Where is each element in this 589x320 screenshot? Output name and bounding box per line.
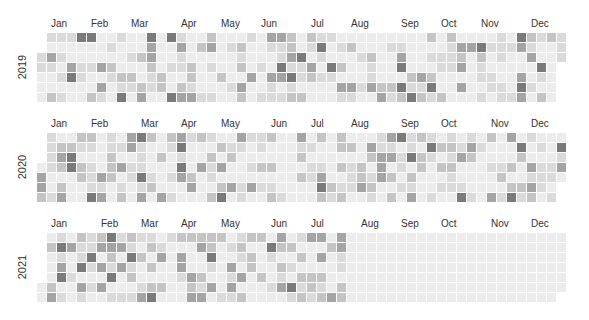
day-cell (277, 183, 286, 192)
day-cell (447, 143, 456, 152)
month-label-aug: Aug (361, 218, 379, 229)
day-cell (367, 293, 376, 302)
day-cell (397, 183, 406, 192)
day-cell (307, 183, 316, 192)
day-cell (407, 163, 416, 172)
day-cell (67, 163, 76, 172)
day-cell (107, 133, 116, 142)
day-cell (217, 183, 226, 192)
day-cell (467, 283, 476, 292)
day-cell (347, 173, 356, 182)
day-cell (477, 193, 486, 202)
day-cell (507, 243, 516, 252)
day-cell (257, 273, 266, 282)
day-cell (267, 233, 276, 242)
day-cell (377, 153, 386, 162)
day-cell (117, 143, 126, 152)
day-cell (117, 253, 126, 262)
day-cell (517, 193, 526, 202)
day-cell (137, 273, 146, 282)
day-cell (517, 263, 526, 272)
day-cell (437, 143, 446, 152)
day-cell (267, 273, 276, 282)
day-cell (397, 263, 406, 272)
day-cell (307, 163, 316, 172)
day-cell (227, 243, 236, 252)
day-cell (277, 193, 286, 202)
day-cell (387, 193, 396, 202)
day-cell (307, 283, 316, 292)
day-cell (267, 193, 276, 202)
day-cell (117, 293, 126, 302)
day-cell (187, 283, 196, 292)
month-label-jan: Jan (51, 118, 67, 129)
day-cell (197, 153, 206, 162)
day-cell (387, 233, 396, 242)
day-cell (127, 133, 136, 142)
day-cell (507, 273, 516, 282)
day-cell (217, 253, 226, 262)
day-cell (227, 183, 236, 192)
day-cell (547, 143, 556, 152)
day-cell (277, 143, 286, 152)
day-cell (97, 163, 106, 172)
day-cell (517, 253, 526, 262)
day-cell (297, 153, 306, 162)
day-cell (247, 183, 256, 192)
day-cell (477, 163, 486, 172)
day-cell (407, 283, 416, 292)
day-cell (177, 233, 186, 242)
day-cell (447, 193, 456, 202)
month-label-apr: Apr (181, 218, 197, 229)
day-cell (207, 283, 216, 292)
day-cell (187, 163, 196, 172)
day-cell (367, 233, 376, 242)
day-cell (127, 253, 136, 262)
day-cell (247, 293, 256, 302)
day-cell (347, 133, 356, 142)
day-cell (37, 293, 46, 302)
day-cell (187, 263, 196, 272)
day-cell (397, 193, 406, 202)
day-cell (237, 143, 246, 152)
day-cell (477, 143, 486, 152)
day-cell (247, 163, 256, 172)
day-cell (207, 243, 216, 252)
day-cell (357, 273, 366, 282)
day-cell (457, 173, 466, 182)
day-cell (287, 173, 296, 182)
day-cell (47, 183, 56, 192)
month-label-dec: Dec (531, 218, 549, 229)
day-cell (257, 193, 266, 202)
day-cell (497, 173, 506, 182)
day-cell (177, 263, 186, 272)
day-cell (437, 173, 446, 182)
day-cell (337, 143, 346, 152)
day-cell (367, 173, 376, 182)
day-cell (497, 133, 506, 142)
day-cell (407, 183, 416, 192)
day-cell (217, 263, 226, 272)
day-cell (357, 133, 366, 142)
day-cell (497, 273, 506, 282)
day-cell (517, 153, 526, 162)
day-cell (557, 153, 566, 162)
day-cell (437, 133, 446, 142)
day-cell (207, 253, 216, 262)
month-label-may: May (221, 118, 240, 129)
day-cell (37, 193, 46, 202)
day-cell (397, 143, 406, 152)
day-cell (547, 233, 556, 242)
day-cell (267, 243, 276, 252)
day-cell (257, 253, 266, 262)
day-cell (47, 143, 56, 152)
day-cell (327, 143, 336, 152)
day-cell (417, 133, 426, 142)
day-cell (237, 283, 246, 292)
day-cell (87, 133, 96, 142)
day-cell (427, 173, 436, 182)
day-cell (317, 273, 326, 282)
day-cell (107, 193, 116, 202)
day-cell (307, 153, 316, 162)
day-cell (147, 173, 156, 182)
